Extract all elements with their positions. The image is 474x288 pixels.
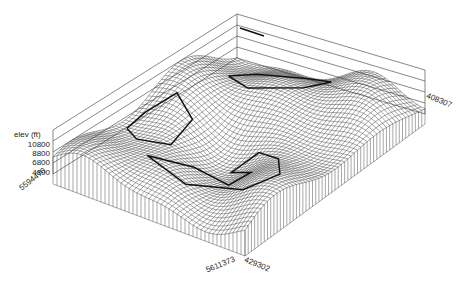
z-tick-6800: 6800 — [14, 159, 50, 167]
z-tick-10800: 10800 — [14, 141, 50, 149]
z-axis-title: elev (ft) — [14, 131, 41, 139]
terrain-wireframe-plot — [0, 0, 474, 288]
z-tick-8800: 8800 — [14, 150, 50, 158]
